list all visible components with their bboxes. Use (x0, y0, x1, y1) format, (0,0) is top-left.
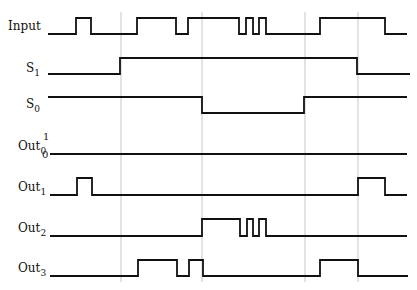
level-one-tick: 1 (43, 131, 49, 142)
waveform-out1 (50, 178, 407, 195)
signal-labels: InputS1S0Out0Out1Out2Out3 (8, 19, 46, 278)
signal-label-input: Input (8, 19, 41, 33)
signal-label-out3: Out3 (18, 261, 46, 278)
waveform-out3 (50, 260, 408, 276)
signal-label-out1: Out1 (18, 180, 46, 197)
vertical-guide-lines (121, 12, 358, 282)
level-zero-tick: 0 (42, 149, 48, 160)
waveform-s0 (48, 97, 407, 113)
signal-label-out2: Out2 (18, 221, 46, 238)
signal-waveforms (48, 18, 410, 276)
waveform-input (48, 18, 407, 34)
waveform-s1 (48, 58, 410, 74)
timing-diagram: InputS1S0Out0Out1Out2Out3 1 0 (0, 0, 417, 290)
signal-label-s0: S0 (26, 97, 40, 114)
waveform-out2 (50, 219, 407, 236)
signal-label-s1: S1 (26, 61, 40, 78)
